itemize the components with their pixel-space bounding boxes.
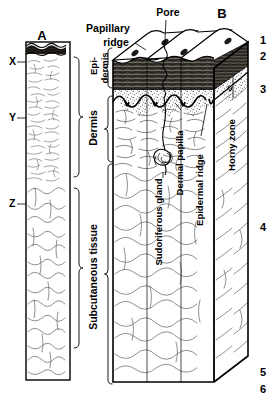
panel-a-column [26,42,70,380]
papillary-ridge-label-line2: ridge [103,36,129,48]
subcutaneous-label: Subcutaneous tissue [87,224,99,330]
epidermal-ridge-label: Epidermal ridge [194,154,205,226]
skin-cross-section-figure: A [0,0,276,405]
right-number-6: 6 [260,383,266,395]
epidermis-label-line1: Epi- [88,57,99,75]
panel-b-label: B [217,6,226,21]
papillary-ridge-label-line1: Papillary [86,22,130,34]
diagram-canvas: A [0,0,276,405]
marker-x-label: X [9,55,16,67]
dermal-papilla-label: Dermal papilla [174,130,185,196]
panel-a-label: A [37,28,47,43]
right-number-2: 2 [260,50,266,62]
marker-z-label: Z [9,197,16,209]
right-number-1: 1 [260,34,266,46]
right-number-4: 4 [260,221,267,233]
marker-y-label: Y [9,111,16,123]
right-number-5: 5 [260,366,266,378]
horny-zone-label: Horny zone [226,119,237,171]
dermis-label: Dermis [87,110,99,146]
pore-label: Pore [156,6,180,18]
right-number-3: 3 [260,83,266,95]
sudoriferous-gland-label: Sudoriferous gland [153,178,164,265]
